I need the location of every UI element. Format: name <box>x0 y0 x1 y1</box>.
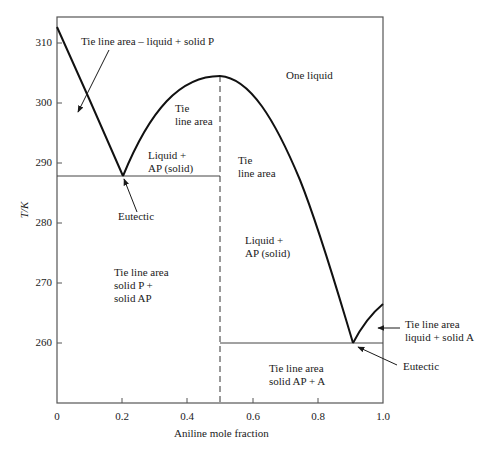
label-tie-right-1: Tie <box>238 154 252 167</box>
label-eutectic-2: Eutectic <box>403 360 439 373</box>
y-tick-label: 310 <box>16 36 52 48</box>
liquidus-p-curve <box>57 27 123 176</box>
y-tick-label: 270 <box>16 276 52 288</box>
x-tick-label: 0.2 <box>107 410 137 422</box>
x-axis-title: Aniline mole fraction <box>174 427 269 439</box>
label-tie-upper-1: Tie <box>175 102 189 115</box>
label-liquid-ap-2b: AP (solid) <box>245 247 290 260</box>
arrow-eutectic-1 <box>124 179 137 212</box>
label-liquid-ap-1b: AP (solid) <box>148 162 193 175</box>
arrow-eutectic-2 <box>358 347 397 365</box>
y-tick-label: 290 <box>16 156 52 168</box>
phase-diagram <box>0 0 490 452</box>
liquidus-a-curve <box>353 304 383 343</box>
arrow-liquid-solid-p <box>78 50 109 112</box>
liquidus-ap-right-curve <box>220 76 353 343</box>
y-tick-label: 300 <box>16 96 52 108</box>
x-tick-label: 0.8 <box>303 410 333 422</box>
x-tick-label: 0.4 <box>172 410 202 422</box>
label-tie-upper-2: line area <box>175 115 213 128</box>
label-tie-right-2: line area <box>238 167 276 180</box>
label-eutectic-1: Eutectic <box>118 210 154 223</box>
label-liquid-solid-a-1: Tie line area <box>405 318 460 331</box>
y-ticks <box>57 43 62 343</box>
label-liquid-ap-1a: Liquid + <box>148 149 186 162</box>
x-tick-label: 0.6 <box>238 410 268 422</box>
label-solid-p-ap-1: Tie line area <box>114 266 169 279</box>
label-liquid-ap-2a: Liquid + <box>245 234 283 247</box>
label-solid-ap-a-1: Tie line area <box>269 362 324 375</box>
y-tick-label: 260 <box>16 336 52 348</box>
label-tie-liquid-solid-p: Tie line area – liquid + solid P <box>81 35 214 48</box>
x-tick-label: 0 <box>42 410 72 422</box>
label-liquid-solid-a-2: liquid + solid A <box>405 331 474 344</box>
label-one-liquid: One liquid <box>286 69 333 82</box>
label-solid-p-ap-2: solid P + <box>114 279 153 292</box>
label-solid-p-ap-3: solid AP <box>114 292 152 305</box>
y-axis-title: T/K <box>18 202 30 219</box>
x-tick-label: 1.0 <box>368 410 398 422</box>
label-solid-ap-a-2: solid AP + A <box>269 375 325 388</box>
